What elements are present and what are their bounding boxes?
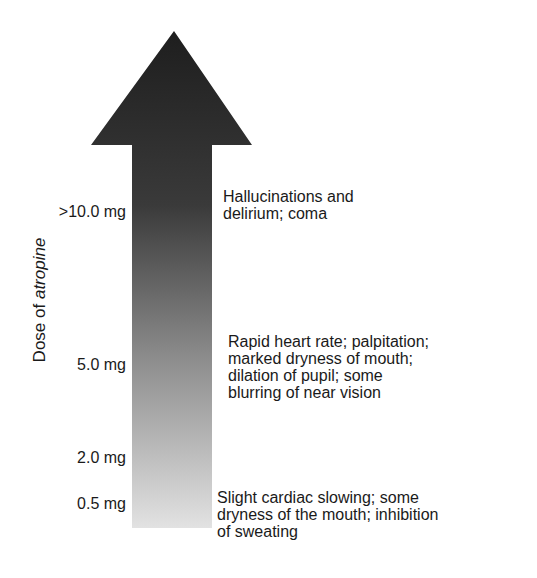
dose-label-2mg: 2.0 mg bbox=[6, 449, 126, 467]
effect-10mg: Hallucinations and delirium; coma bbox=[223, 188, 354, 222]
effect-5mg: Rapid heart rate; palpitation; marked dr… bbox=[228, 333, 429, 401]
dose-label-10mg: >10.0 mg bbox=[6, 203, 126, 221]
dose-label-5mg: 5.0 mg bbox=[6, 356, 126, 374]
dose-label-0-5mg: 0.5 mg bbox=[6, 495, 126, 513]
drug-name: atropine bbox=[30, 238, 49, 299]
effect-0-5mg: Slight cardiac slowing; some dryness of … bbox=[217, 489, 438, 540]
axis-label: Dose of atropine bbox=[30, 238, 50, 363]
